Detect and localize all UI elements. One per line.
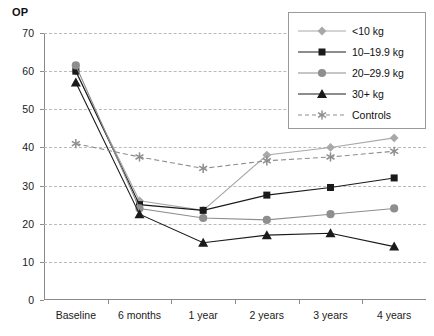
legend-key-triangle-icon [296, 87, 348, 101]
page-title: OP [12, 6, 29, 18]
legend-item-10-19-9kg[interactable]: 10–19.9 kg [289, 41, 425, 62]
chart-container: OP 010203040506070 Baseline6 months1 yea… [0, 0, 434, 336]
legend-label: 30+ kg [352, 88, 384, 100]
legend-label: <10 kg [352, 25, 384, 37]
x-axis-tick-label: 1 year [189, 309, 218, 321]
y-axis-tick-label: 60 [8, 65, 34, 77]
y-axis-tick-label: 10 [8, 256, 34, 268]
x-axis-tick-label: 3 years [313, 309, 347, 321]
x-axis-tick-label: Baseline [56, 309, 96, 321]
legend-label: 20–29.9 kg [352, 67, 404, 79]
x-axis-tick-label: 4 years [377, 309, 411, 321]
y-axis-tick-label: 20 [8, 218, 34, 230]
legend-key-circle-icon [296, 66, 348, 80]
y-axis-tick-label: 50 [8, 103, 34, 115]
x-axis-tick-mark [362, 300, 363, 304]
legend-item-lt10kg[interactable]: <10 kg [289, 20, 425, 41]
legend-key-square-icon [296, 45, 348, 59]
legend-key-asterisk-icon [296, 108, 348, 122]
x-axis-tick-mark [299, 300, 300, 304]
x-axis-tick-mark [235, 300, 236, 304]
x-axis-tick-mark [171, 300, 172, 304]
y-axis-tick-label: 30 [8, 180, 34, 192]
legend-item-controls[interactable]: Controls [289, 104, 425, 125]
legend-key-diamond-icon [296, 24, 348, 38]
y-axis-tick-label: 40 [8, 141, 34, 153]
chart-legend: <10 kg 10–19.9 kg 20–29.9 kg 30+ kg Cont… [288, 12, 426, 129]
legend-item-20-29-9kg[interactable]: 20–29.9 kg [289, 62, 425, 83]
legend-item-30plus-kg[interactable]: 30+ kg [289, 83, 425, 104]
x-axis-tick-label: 6 months [118, 309, 161, 321]
x-axis-tick-label: 2 years [250, 309, 284, 321]
legend-label: Controls [352, 109, 391, 121]
x-axis-tick-mark [108, 300, 109, 304]
y-axis-tick-label: 0 [8, 294, 34, 306]
y-axis-tick-label: 70 [8, 27, 34, 39]
legend-label: 10–19.9 kg [352, 46, 404, 58]
y-axis-tick-mark [40, 300, 44, 301]
